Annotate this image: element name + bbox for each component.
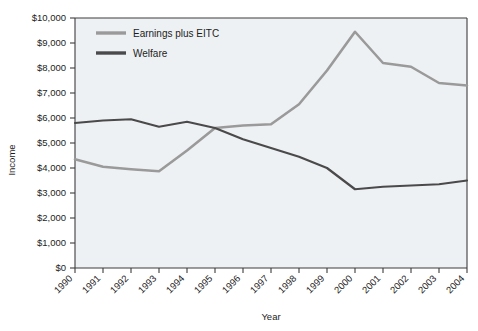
y-axis-tick-label: $2,000	[37, 212, 66, 223]
legend-label-earnings-plus-eitc: Earnings plus EITC	[133, 28, 219, 39]
y-axis-tick-label: $9,000	[37, 37, 66, 48]
legend-label-welfare: Welfare	[133, 48, 168, 59]
y-axis-tick-label: $0	[55, 262, 66, 273]
y-axis-tick-label: $7,000	[37, 87, 66, 98]
income-line-chart: $0$1,000$2,000$3,000$4,000$5,000$6,000$7…	[0, 0, 478, 331]
y-axis-title: Income	[6, 144, 17, 175]
y-axis-tick-label: $4,000	[37, 162, 66, 173]
y-axis-tick-label: $5,000	[37, 137, 66, 148]
x-axis-title: Year	[261, 311, 280, 322]
y-axis-tick-label: $10,000	[32, 12, 66, 23]
y-axis-tick-label: $6,000	[37, 112, 66, 123]
y-axis-tick-label: $8,000	[37, 62, 66, 73]
y-axis-tick-label: $3,000	[37, 187, 66, 198]
chart-canvas: $0$1,000$2,000$3,000$4,000$5,000$6,000$7…	[0, 0, 478, 331]
y-axis-tick-label: $1,000	[37, 237, 66, 248]
